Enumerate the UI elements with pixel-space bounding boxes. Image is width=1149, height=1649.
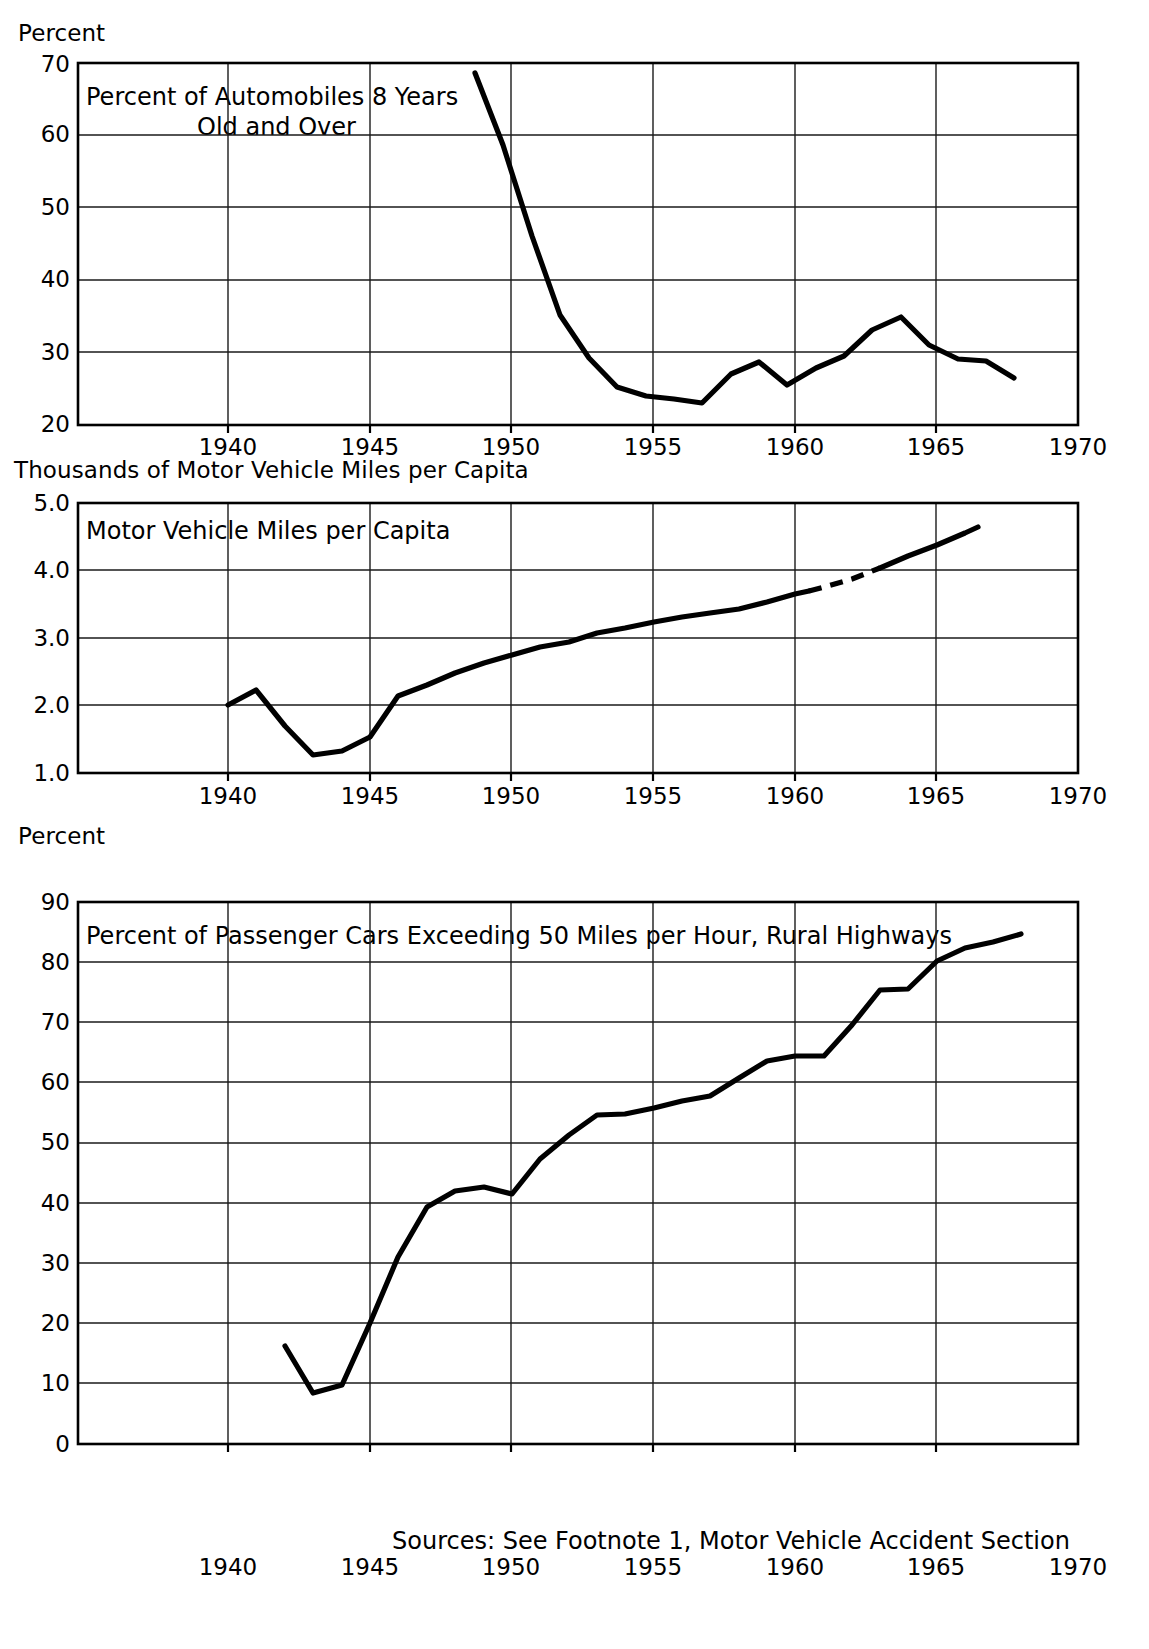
panel-1-data-series — [475, 73, 1014, 403]
panel-1-plot — [0, 0, 1149, 470]
panel-2-data-series-solid-late — [880, 527, 978, 568]
panel-automobiles-age: Percent Percent of Automobiles 8 Years O… — [0, 0, 1149, 470]
chart-page: Percent Percent of Automobiles 8 Years O… — [0, 0, 1149, 1649]
panel-3-plot — [0, 815, 1149, 1649]
panel-2-plot — [0, 455, 1149, 815]
panel-2-data-series-solid-early — [228, 591, 809, 755]
panel-2-data-series-dashed — [809, 568, 880, 591]
panel-speeding-cars: Percent Percent of Passenger Cars Exceed… — [0, 815, 1149, 1649]
panel-miles-per-capita: Thousands of Motor Vehicle Miles per Cap… — [0, 455, 1149, 815]
